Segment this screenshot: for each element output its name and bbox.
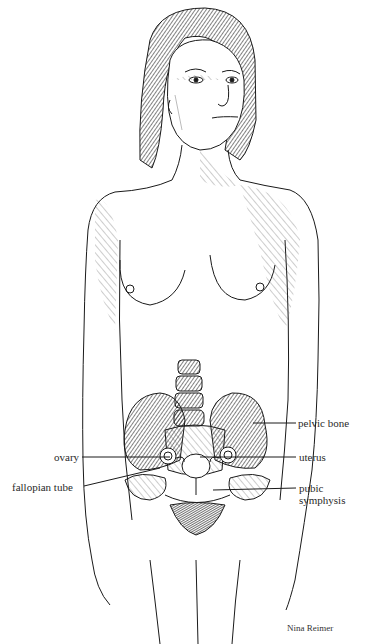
illustrator-credit: Nina Reimer — [287, 623, 333, 633]
torso-shading — [95, 150, 300, 330]
label-ovary: ovary — [54, 451, 79, 463]
label-pubic-line2: symphysis — [299, 494, 345, 506]
face — [167, 40, 244, 150]
label-pubic-symphysis: pubic symphysis — [299, 482, 345, 506]
label-pelvic-bone: pelvic bone — [298, 417, 349, 429]
label-fallopian-tube: fallopian tube — [12, 481, 73, 493]
label-uterus: uterus — [299, 451, 326, 463]
label-pubic-line1: pubic — [299, 482, 323, 494]
anatomy-illustration — [0, 0, 371, 644]
